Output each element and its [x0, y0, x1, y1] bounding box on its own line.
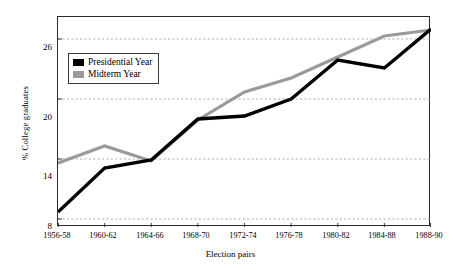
legend-item-midterm-year: Midterm Year	[73, 68, 152, 80]
y-tick-20: 20	[26, 113, 52, 122]
series-line-midterm-year	[58, 30, 431, 163]
legend-label-presidential-year: Presidential Year	[88, 56, 152, 68]
x-tick-1976-78: 1976-78	[262, 231, 316, 240]
x-tick-1968-70: 1968-70	[169, 231, 223, 240]
y-tick-26: 26	[26, 43, 52, 52]
plot-area	[57, 16, 430, 226]
x-tick-1984-88: 1984-88	[355, 231, 409, 240]
x-tick-1988-90: 1988-90	[402, 231, 456, 240]
x-tick-1960-62: 1960-62	[76, 231, 130, 240]
x-axis-title: Election pairs	[0, 249, 461, 259]
y-tick-14: 14	[26, 172, 52, 181]
gray-line-swatch	[73, 71, 84, 78]
legend-label-midterm-year: Midterm Year	[88, 68, 141, 80]
chart-canvas	[58, 17, 431, 227]
chart-figure: % College graduates 26 20 14 8 President…	[0, 0, 461, 270]
legend-item-presidential-year: Presidential Year	[73, 56, 152, 68]
y-axis-tick-labels: 26 20 14 8	[22, 0, 52, 270]
x-axis-tick-labels: 1956-58 1960-62 1964-66 1968-70 1972-74 …	[0, 231, 461, 247]
black-line-swatch	[73, 59, 84, 66]
y-tick-8: 8	[26, 222, 52, 231]
chart-legend: Presidential Year Midterm Year	[68, 53, 159, 84]
